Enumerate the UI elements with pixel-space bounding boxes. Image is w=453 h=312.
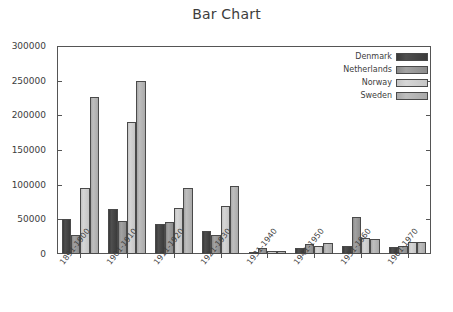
bar-sweden-1891-1900	[90, 97, 99, 254]
y-axis-tick-mark	[426, 115, 431, 116]
legend-label: Norway	[362, 78, 392, 87]
legend-item-denmark[interactable]: Denmark	[326, 51, 428, 62]
y-axis-tick-mark	[57, 150, 62, 151]
bar-sweden-1931-1940	[277, 251, 286, 254]
y-axis-tick-mark	[426, 219, 431, 220]
y-axis-tick-label: 50000	[17, 214, 46, 224]
x-axis-tick-mark	[80, 254, 81, 258]
legend-swatch-netherlands	[396, 66, 428, 74]
bar-sweden-1911-1920	[183, 188, 192, 254]
x-axis-tick-mark	[408, 254, 409, 258]
legend-swatch-norway	[396, 79, 428, 87]
legend-swatch-denmark	[396, 53, 428, 61]
y-axis-tick-mark	[426, 150, 431, 151]
bar-norway-1931-1940	[267, 251, 276, 254]
bar-sweden-1961-1970	[417, 242, 426, 254]
bar-sweden-1951-1960	[370, 239, 379, 254]
chart-legend: DenmarkNetherlandsNorwaySweden	[326, 49, 430, 105]
legend-item-sweden[interactable]: Sweden	[326, 90, 428, 101]
y-axis-tick-label: 150000	[12, 145, 46, 155]
y-axis-tick-mark	[57, 185, 62, 186]
x-axis-tick-mark	[174, 254, 175, 258]
legend-label: Denmark	[355, 52, 392, 61]
x-axis-tick-mark	[267, 254, 268, 258]
y-axis-tick-label: 0	[40, 249, 46, 259]
legend-label: Sweden	[360, 91, 392, 100]
y-axis-tick-mark	[57, 219, 62, 220]
x-axis-tick-mark	[314, 254, 315, 258]
x-axis-tick-mark	[127, 254, 128, 258]
legend-item-netherlands[interactable]: Netherlands	[326, 64, 428, 75]
y-axis-tick-label: 300000	[12, 41, 46, 51]
bar-sweden-1901-1910	[136, 81, 145, 254]
chart-title: Bar Chart	[0, 6, 453, 22]
legend-item-norway[interactable]: Norway	[326, 77, 428, 88]
legend-label: Netherlands	[343, 65, 392, 74]
y-axis-tick-label: 100000	[12, 180, 46, 190]
y-axis-tick-label: 200000	[12, 110, 46, 120]
bar-norway-1941-1950	[314, 246, 323, 254]
legend-swatch-sweden	[396, 92, 428, 100]
bar-sweden-1921-1930	[230, 186, 239, 254]
x-axis-tick-mark	[361, 254, 362, 258]
y-axis: 050000100000150000200000250000300000	[0, 0, 57, 312]
y-axis-tick-label: 250000	[12, 76, 46, 86]
y-axis-tick-mark	[57, 81, 62, 82]
y-axis-tick-mark	[426, 185, 431, 186]
y-axis-tick-mark	[57, 115, 62, 116]
bar-sweden-1941-1950	[323, 243, 332, 254]
bar-chart: Bar Chart 050000100000150000200000250000…	[0, 0, 453, 312]
x-axis-tick-mark	[221, 254, 222, 258]
